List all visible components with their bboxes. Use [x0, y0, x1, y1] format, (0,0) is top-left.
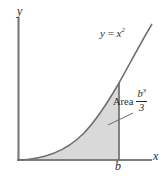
area-fraction-numerator: b3 — [136, 89, 147, 101]
area-fraction: b3 3 — [136, 89, 147, 113]
area-word-label: Area — [113, 97, 133, 108]
area-value-label: Area b3 3 — [113, 90, 147, 114]
x-tick-label-b: b — [115, 160, 121, 172]
y-axis-label: y — [17, 5, 22, 17]
x-axis-label: x — [153, 150, 158, 162]
curve-equation-exponent: 2 — [122, 26, 126, 34]
area-numerator-exponent: 3 — [143, 87, 146, 94]
curve-equation-label: y = x2 — [100, 28, 125, 39]
curve-equation-operator: = — [105, 27, 117, 39]
shaded-area-region — [18, 83, 119, 160]
figure-area-under-parabola: y x b y = x2 Area b3 3 — [0, 0, 168, 176]
area-fraction-denominator: 3 — [139, 102, 144, 114]
